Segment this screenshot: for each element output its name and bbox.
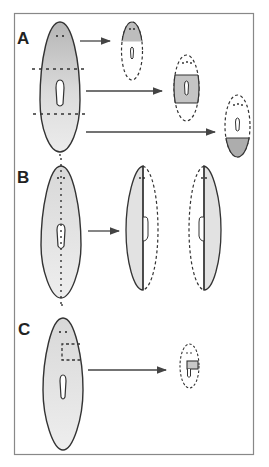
regenerated-trunk-fragment [174,55,199,121]
pharynx [60,375,66,399]
eye-icon [56,35,58,37]
original-piece [187,361,198,369]
panel-b: B [17,158,221,308]
regenerated-tail-fragment [225,95,250,157]
panel-c: C [18,304,199,450]
panel-label-a: A [17,29,29,48]
panel-label-b: B [17,168,29,187]
regenerated-left-half [126,166,158,290]
regenerated-right-half [189,166,221,290]
planarian-regeneration-diagram: A [0,0,269,467]
panel-label-c: C [18,320,30,339]
regenerated-head-fragment [122,22,143,80]
regenerated-small-worm [180,344,199,388]
pharynx [56,80,64,106]
panel-a: A [17,22,250,157]
eye-icon [62,35,64,37]
